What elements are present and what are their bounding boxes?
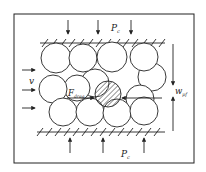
pressure-arrows-top [68,20,131,34]
pressure-top-label: Pc [110,23,120,34]
bottom-wall [37,128,165,136]
pressure-bottom-label: Pc [120,149,130,160]
velocity-label: v [29,76,34,86]
hatched-particle [95,81,121,107]
pressure-arrows-bottom [70,138,144,153]
particle-drag-diagram: Pc Pc v Fdrag wpf [0,0,206,172]
width-label: wpf [175,86,188,97]
